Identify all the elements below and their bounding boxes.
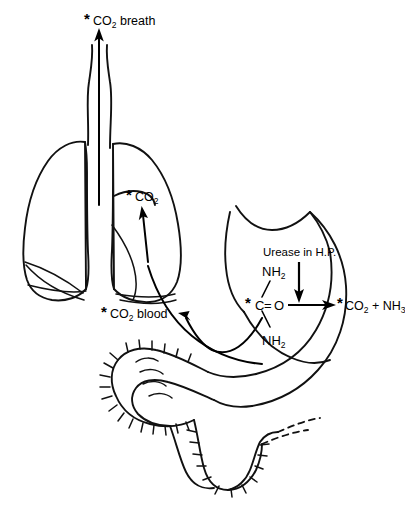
co2-breath-arrow (94, 28, 104, 205)
co2-lung-star: * (126, 186, 132, 203)
right-lung (23, 142, 88, 301)
left-lung (111, 143, 180, 303)
amine-bottom-label: NH2 (262, 333, 286, 350)
intestine-dashed-upper (262, 430, 308, 444)
products-label: * CO2 + NH3 (337, 294, 405, 315)
intestine-dashed-lower (278, 418, 320, 432)
co2-breath-label: * CO2 breath (84, 10, 155, 30)
co2-lung-label: * CO2 (126, 186, 159, 206)
amine-top-label: NH2 (262, 264, 286, 281)
urease-label: Urease in H.P. (263, 246, 336, 258)
co2-breath-star: * (84, 10, 90, 27)
products-text: CO2 + NH3 (345, 299, 405, 315)
co2-blood-label: * CO2 blood (101, 303, 168, 323)
urea-oxygen-label: O (274, 298, 284, 313)
urea-carbon-label: C (255, 298, 264, 313)
co2-breath-text: CO2 breath (93, 14, 155, 30)
co2-blood-arrowhead (178, 311, 191, 321)
urease-arrow (294, 262, 304, 303)
co2-blood-star: * (101, 303, 107, 320)
urea-core-label: * C = O (245, 294, 284, 313)
urea-carbon-star: * (245, 294, 251, 311)
anatomy-diagram: products) ============ --> * CO2 breath … (0, 0, 405, 525)
products-star: * (337, 294, 343, 311)
duodenum (100, 340, 320, 497)
urea-double-bond: = (264, 298, 272, 313)
co2-blood-arrow (178, 311, 262, 352)
co2-lung-text: CO2 (135, 190, 159, 206)
co2-lung-arrow (139, 206, 148, 262)
co2-blood-text: CO2 blood (110, 307, 168, 323)
diagram-root: products) ============ --> * CO2 breath … (0, 0, 405, 525)
